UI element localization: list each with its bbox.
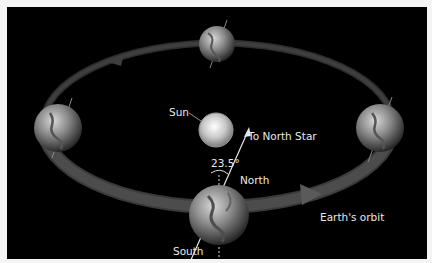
north-label: North — [240, 175, 269, 186]
sun-label: Sun — [169, 107, 189, 118]
north-star-label: To North Star — [248, 131, 317, 142]
diagram-panel: Sun To North Star 23.5° North South Eart… — [7, 7, 427, 259]
sun-icon — [199, 113, 233, 147]
earth-top — [199, 20, 235, 68]
tilt-angle-arc — [211, 170, 228, 174]
earth-bottom — [189, 185, 249, 245]
south-label: South — [173, 246, 204, 257]
tilt-angle-label: 23.5° — [211, 158, 240, 169]
orbit-label: Earth's orbit — [320, 212, 384, 223]
earth-left — [34, 98, 82, 158]
